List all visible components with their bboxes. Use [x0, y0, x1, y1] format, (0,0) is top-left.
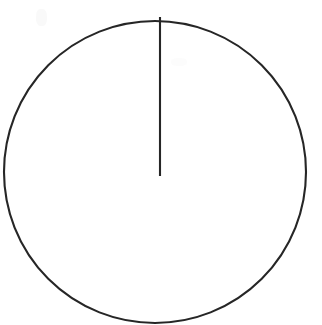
circle-figure-svg: [0, 0, 322, 325]
figure-canvas: Circle with vertical radius Hand-drawn c…: [0, 0, 322, 325]
